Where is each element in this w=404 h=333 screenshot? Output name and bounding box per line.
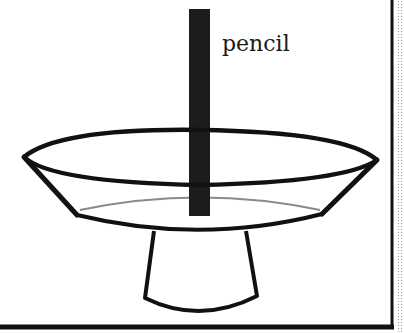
bowl-left-side <box>24 157 77 215</box>
pencil-label: pencil <box>222 33 290 55</box>
dotted-edge <box>397 0 404 333</box>
bowl-pencil-diagram <box>0 0 404 333</box>
bowl-bottom-curve <box>77 214 322 230</box>
diagram-canvas: pencil <box>0 0 404 333</box>
bowl-right-side <box>322 160 377 214</box>
stand-base <box>145 231 257 311</box>
